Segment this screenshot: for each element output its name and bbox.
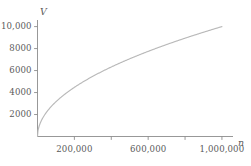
y-tick-label: 10,000 [1,22,32,31]
series-group [38,27,222,137]
x-axis-ticks [74,137,222,140]
plot-area [0,0,251,166]
x-tick-label: 200,000 [34,145,114,154]
y-tick-label: 2000 [9,110,31,119]
y-tick-label: 6000 [9,66,31,75]
axes-group [38,20,234,137]
data-curve [38,27,222,137]
y-axis-ticks [34,27,37,115]
y-tick-label: 8000 [9,44,31,53]
chart-figure: 200040006000800010,000 200,000600,0001,0… [0,0,251,166]
y-tick-label: 4000 [9,88,31,97]
y-axis-title: V [40,7,47,16]
x-tick-label: 600,000 [108,145,188,154]
x-axis-title: n [238,138,244,147]
